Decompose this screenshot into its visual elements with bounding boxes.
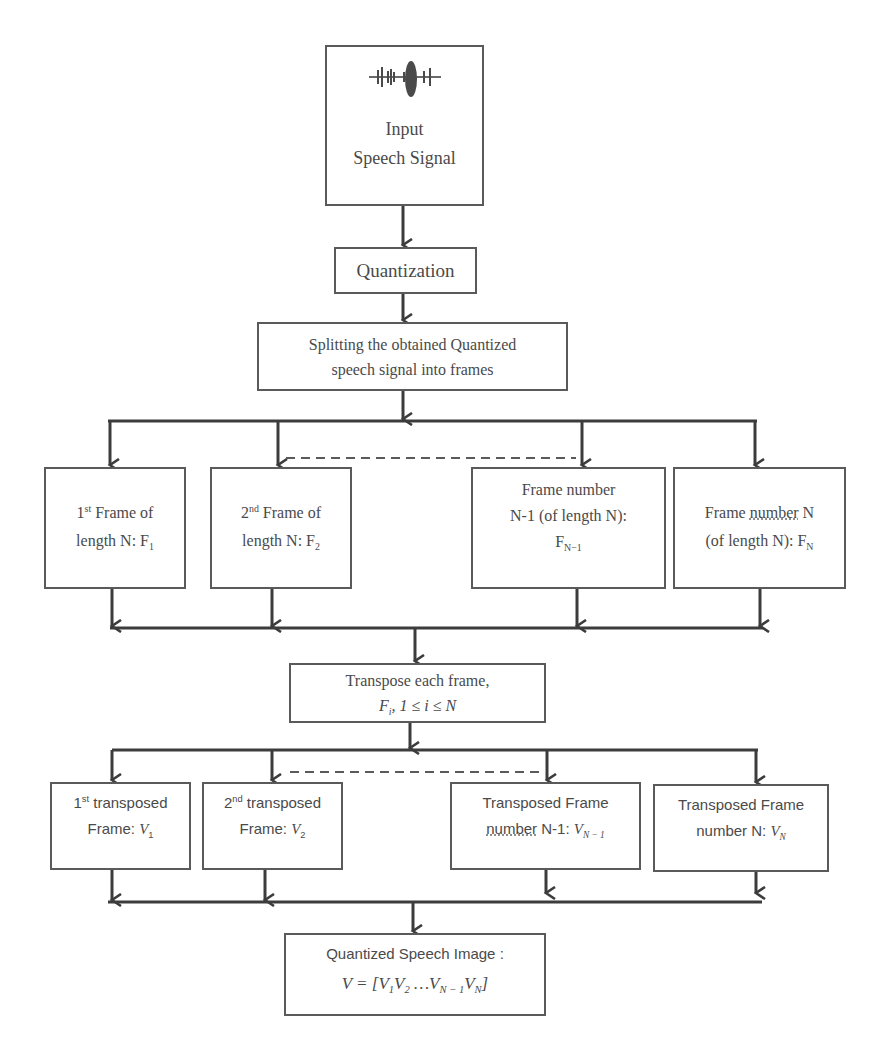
input-label-line2: Speech Signal [353, 148, 455, 169]
transposed-2-line1: 2nd transposed [224, 790, 321, 816]
frame-n-minus-1-line1: Frame number [522, 477, 616, 503]
frame-n-node: Frame number N (of length N): FN [673, 467, 846, 589]
transpose-condition: Fi, 1 ≤ i ≤ N [379, 693, 456, 718]
input-label-line1: Input [386, 119, 424, 140]
transposed-2-line2: Frame: V2 [239, 816, 305, 842]
transposed-frame-n-node: Transposed Frame number N: VN [653, 784, 829, 872]
quantization-label: Quantization [356, 260, 454, 282]
frame-2-line2: length N: F2 [242, 527, 320, 555]
transpose-label: Transpose each frame, [346, 668, 490, 693]
frame-2-line1: 2nd Frame of [241, 499, 321, 527]
transposed-n-minus-1-line1: Transposed Frame [482, 790, 608, 816]
transposed-n-line1: Transposed Frame [678, 792, 804, 818]
transposed-frame-2-node: 2nd transposed Frame: V2 [202, 782, 343, 870]
final-equation: V = [V1V2 …VN − 1VN] [342, 974, 488, 994]
frame-n-minus-1-node: Frame number N-1 (of length N): FN−1 [471, 467, 666, 589]
transposed-frame-1-node: 1st transposed Frame: V1 [50, 782, 191, 870]
split-label-line1: Splitting the obtained Quantized [309, 332, 517, 357]
final-label: Quantized Speech Image : [326, 945, 504, 962]
frame-n-minus-1-line2: N-1 (of length N): [510, 503, 627, 529]
quantization-node: Quantization [334, 247, 477, 294]
transpose-node: Transpose each frame, Fi, 1 ≤ i ≤ N [289, 663, 546, 723]
frame-1-line2: length N: F1 [76, 527, 154, 555]
transposed-1-line1: 1st transposed [74, 790, 168, 816]
frame-n-line1: Frame number N [705, 499, 814, 527]
frame-1-node: 1st Frame of length N: F1 [44, 467, 186, 589]
waveform-icon [365, 57, 445, 105]
input-speech-signal-node: Input Speech Signal [325, 45, 484, 206]
transposed-1-line2: Frame: V1 [87, 816, 153, 842]
split-frames-node: Splitting the obtained Quantized speech … [257, 322, 568, 391]
frame-2-node: 2nd Frame of length N: F2 [210, 467, 352, 589]
frame-1-line1: 1st Frame of [77, 499, 154, 527]
frame-n-line2: (of length N): FN [705, 527, 813, 555]
frame-n-minus-1-line3: FN−1 [555, 529, 582, 555]
quantized-speech-image-node: Quantized Speech Image : V = [V1V2 …VN −… [284, 933, 546, 1016]
transposed-n-minus-1-line2: number N-1: VN − 1 [486, 816, 605, 842]
transposed-n-line2: number N: VN [696, 818, 786, 844]
flowchart-canvas: Input Speech Signal Quantization Splitti… [0, 0, 887, 1058]
transposed-frame-n-minus-1-node: Transposed Frame number N-1: VN − 1 [450, 782, 641, 870]
split-label-line2: speech signal into frames [331, 357, 493, 382]
